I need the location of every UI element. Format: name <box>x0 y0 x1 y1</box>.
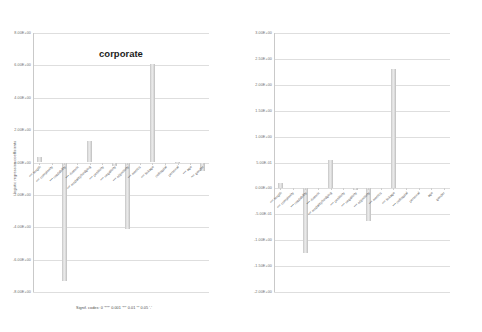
y-axis-tick-label: 2.50E+00 <box>243 57 272 61</box>
x-axis-tick-mark <box>39 163 40 165</box>
gridline <box>274 292 450 293</box>
gridline <box>33 163 209 164</box>
chart-panel-non-corporate: non-corporate logistic regression coeffi… <box>241 0 482 332</box>
y-axis-tick-label: -1.00E+00 <box>243 238 272 242</box>
y-axis-tick-label: 0.00E+00 <box>2 161 31 165</box>
y-axis-tick-label: -4.00E+00 <box>2 225 31 229</box>
gridline <box>33 227 209 228</box>
x-axis-tick-mark <box>393 188 394 190</box>
x-axis-tick-mark <box>305 188 306 190</box>
x-axis-tick-mark <box>406 188 407 190</box>
x-axis-tick-mark <box>431 188 432 190</box>
y-axis-tick-label: 4.00E+00 <box>2 96 31 100</box>
x-axis-tick-mark <box>64 163 65 165</box>
bar <box>87 141 92 162</box>
bar <box>328 160 333 188</box>
x-axis-tick-mark <box>381 188 382 190</box>
x-axis-tick-mark <box>140 163 141 165</box>
gridline <box>274 33 450 34</box>
plot-area-non-corporate <box>274 33 450 292</box>
x-axis-tick-mark <box>52 163 53 165</box>
gridline <box>274 111 450 112</box>
y-axis-line <box>274 33 275 292</box>
x-axis-tick-mark <box>152 163 153 165</box>
y-axis-tick-label: -6.00E+00 <box>2 258 31 262</box>
x-axis-tick-mark <box>102 163 103 165</box>
x-axis-tick-mark <box>90 163 91 165</box>
bar <box>150 64 155 163</box>
x-axis-tick-mark <box>127 163 128 165</box>
gridline <box>33 260 209 261</box>
x-axis-tick-mark <box>203 163 204 165</box>
x-axis-tick-mark <box>419 188 420 190</box>
y-axis-tick-label: 0.00E+00 <box>243 186 272 190</box>
gridline <box>274 163 450 164</box>
x-axis-tick-mark <box>343 188 344 190</box>
x-axis-tick-mark <box>293 188 294 190</box>
chart-title-corporate: corporate <box>33 48 209 59</box>
y-axis-tick-label: 6.00E+00 <box>2 63 31 67</box>
gridline <box>33 130 209 131</box>
x-axis-tick-mark <box>444 188 445 190</box>
y-axis-tick-label: 1.50E+00 <box>243 109 272 113</box>
x-axis-tick-mark <box>115 163 116 165</box>
gridline <box>274 85 450 86</box>
y-axis-tick-label: 2.00E+00 <box>2 128 31 132</box>
gridline <box>274 266 450 267</box>
gridline <box>274 59 450 60</box>
x-axis-tick-mark <box>280 188 281 190</box>
y-axis-tick-label: 1.00E+00 <box>243 135 272 139</box>
y-axis-tick-label: 3.00E+00 <box>243 31 272 35</box>
gridline <box>274 137 450 138</box>
y-axis-tick-label: 2.00E+00 <box>243 83 272 87</box>
x-axis-tick-mark <box>190 163 191 165</box>
y-axis-tick-label: -8.00E+00 <box>2 290 31 294</box>
x-axis-tick-mark <box>356 188 357 190</box>
gridline <box>33 33 209 34</box>
gridline <box>274 188 450 189</box>
gridline <box>33 98 209 99</box>
plot-area-corporate <box>33 33 209 292</box>
y-axis-tick-label: 5.00E-01 <box>243 161 272 165</box>
y-axis-tick-label: -1.50E+00 <box>243 264 272 268</box>
y-axis-tick-label: -2.00E+00 <box>243 290 272 294</box>
x-axis-tick-mark <box>318 188 319 190</box>
x-axis-tick-mark <box>368 188 369 190</box>
bar <box>391 69 396 188</box>
figure-root: corporate logistic regression coefficien… <box>0 0 482 332</box>
gridline <box>33 292 209 293</box>
x-axis-tick-mark <box>178 163 179 165</box>
gridline <box>33 65 209 66</box>
gridline <box>274 240 450 241</box>
y-axis-title-corporate: logistic regression coefficients <box>12 140 17 193</box>
y-axis-tick-label: 8.00E+00 <box>2 31 31 35</box>
signif-codes-note-corporate: Signif. codes: 0 '***' 0.001 '**' 0.01 '… <box>19 306 209 310</box>
x-axis-tick-mark <box>331 188 332 190</box>
y-axis-line <box>33 33 34 292</box>
